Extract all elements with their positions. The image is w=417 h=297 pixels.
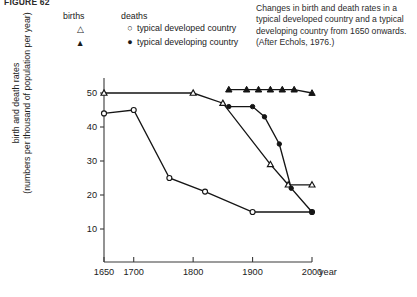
series-line-3 bbox=[229, 107, 312, 212]
data-point-filled-circle bbox=[289, 186, 293, 190]
data-point-open-circle bbox=[203, 189, 208, 194]
x-tick-label: 1700 bbox=[123, 267, 143, 277]
data-point-open-triangle bbox=[309, 182, 315, 187]
data-point-open-circle bbox=[102, 111, 107, 116]
y-tick-label: 20 bbox=[87, 190, 97, 200]
y-tick-label: 10 bbox=[87, 224, 97, 234]
data-point-open-triangle bbox=[220, 100, 226, 105]
x-tick-label: 1650 bbox=[94, 267, 114, 277]
y-tick-label: 30 bbox=[87, 156, 97, 166]
data-point-filled-circle bbox=[277, 142, 281, 146]
x-axis-label: year bbox=[319, 267, 337, 277]
figure-container: FIGURE 62 Changes in birth and death rat… bbox=[0, 0, 417, 297]
data-point-open-triangle bbox=[101, 90, 107, 95]
data-point-open-circle bbox=[131, 108, 136, 113]
chart-plot-area: 102030405016501700180019002000year bbox=[0, 0, 417, 297]
data-point-filled-circle bbox=[250, 104, 254, 108]
y-tick-label: 50 bbox=[87, 88, 97, 98]
data-point-filled-circle bbox=[310, 210, 314, 214]
y-tick-label: 40 bbox=[87, 122, 97, 132]
x-tick-label: 1900 bbox=[242, 267, 262, 277]
series-line-0 bbox=[104, 93, 312, 185]
data-point-open-circle bbox=[167, 176, 172, 181]
x-tick-label: 1800 bbox=[183, 267, 203, 277]
data-point-filled-circle bbox=[227, 104, 231, 108]
series-line-1 bbox=[104, 110, 312, 212]
data-point-filled-circle bbox=[262, 115, 266, 119]
data-point-open-circle bbox=[250, 210, 255, 215]
data-point-open-triangle bbox=[190, 90, 196, 95]
